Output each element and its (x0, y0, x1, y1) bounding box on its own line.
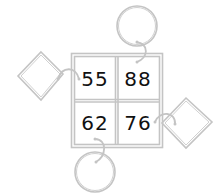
cell-top-right[interactable]: 88 (117, 58, 159, 100)
top-circle-shape[interactable] (117, 6, 157, 46)
bottom-circle-shape[interactable] (75, 152, 115, 192)
right-diamond-shape[interactable] (162, 98, 212, 148)
cell-value: 76 (124, 111, 151, 135)
cell-value: 62 (81, 111, 108, 135)
left-diamond-shape[interactable] (18, 52, 63, 100)
cell-value: 55 (81, 67, 108, 91)
cell-bottom-left[interactable]: 62 (74, 102, 116, 144)
cell-value: 88 (124, 67, 151, 91)
cell-bottom-right[interactable]: 76 (117, 102, 159, 144)
cell-top-left[interactable]: 55 (74, 58, 116, 100)
